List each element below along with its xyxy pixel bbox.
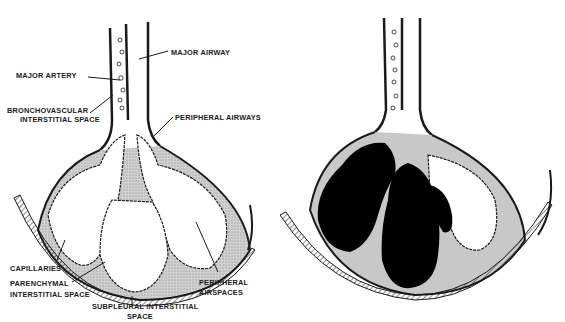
label-subpleural-line2: SPACE [127, 312, 153, 322]
label-peripheral-airspaces-line1: PERIPHERAL [199, 278, 248, 288]
label-peripheral-airspaces-line2: AIRSPACES [199, 288, 243, 298]
label-parenchymal-line1: PARENCHYMAL [10, 279, 69, 289]
label-parenchymal-line2: INTERSTITIAL SPACE [10, 290, 90, 300]
label-major-artery: MAJOR ARTERY [16, 71, 77, 81]
label-peripheral-airways: PERIPHERAL AIRWAYS [175, 113, 261, 123]
consolidated-lobule-illustration [280, 0, 565, 322]
label-bronchovascular-line2: INTERSTITIAL SPACE [20, 115, 100, 125]
label-subpleural-line1: SUBPLEURAL INTERSTITIAL [92, 302, 198, 312]
label-major-airway: MAJOR AIRWAY [171, 48, 230, 58]
label-capillaries: CAPILLARIES [10, 264, 61, 274]
normal-lobule-diagram: MAJOR AIRWAY MAJOR ARTERY BRONCHOVASCULA… [0, 0, 290, 322]
consolidated-lobule-diagram [280, 0, 565, 322]
